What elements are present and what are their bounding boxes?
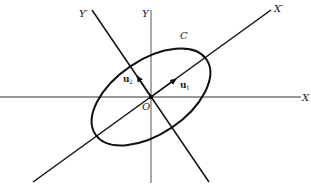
label-x-prime: X′ xyxy=(273,3,284,14)
label-u2-subscript: 2 xyxy=(129,78,133,85)
label-curve-c: C xyxy=(180,30,188,41)
diagram-svg: Y′ Y X′ X C O u 1 u 2 xyxy=(0,0,311,193)
u1-vector-arrow xyxy=(151,79,176,97)
label-origin: O xyxy=(142,101,150,112)
u2-vector-arrow xyxy=(137,76,151,97)
label-y: Y xyxy=(142,8,150,19)
label-u1-subscript: 1 xyxy=(186,84,190,91)
label-x: X xyxy=(301,92,310,103)
label-y-prime: Y′ xyxy=(79,8,89,19)
ellipse-rotated-axes-diagram: Y′ Y X′ X C O u 1 u 2 xyxy=(0,0,311,193)
